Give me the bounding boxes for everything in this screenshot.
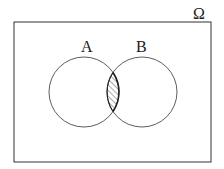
set-a-label: A — [81, 38, 93, 55]
venn-diagram: Ω A B — [0, 0, 224, 169]
set-b-label: B — [136, 38, 147, 55]
universe-label: Ω — [193, 5, 205, 22]
